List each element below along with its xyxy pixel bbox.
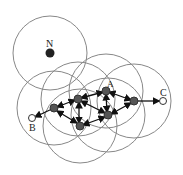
edge [109,92,131,100]
label-a: A [107,79,114,89]
relay-node [74,95,82,103]
edge [57,111,77,123]
relay-node [50,104,58,112]
label-b: B [29,122,36,133]
node-b [29,115,36,122]
nodes [29,49,167,131]
label-n: N [46,38,53,49]
label-c: C [160,87,167,98]
range-circles [13,16,171,163]
node-c [160,98,167,105]
edge [83,117,105,125]
relay-node [104,111,112,119]
edge [81,101,105,113]
relay-node [76,122,84,130]
relay-node [130,97,138,105]
edge [106,94,107,112]
network-diagram: N A B C [0,0,183,175]
node-n [46,49,55,58]
